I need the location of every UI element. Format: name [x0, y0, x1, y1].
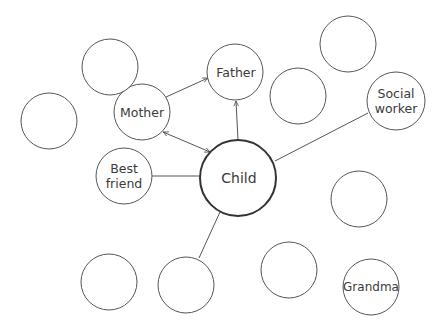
edge-child-father — [236, 101, 238, 140]
label-social-worker-line1: Social — [375, 86, 418, 101]
edge-mother-father — [166, 78, 208, 97]
label-child: Child — [221, 171, 256, 186]
edge-mother-child — [163, 132, 210, 152]
node-empty-8 — [261, 242, 317, 298]
node-empty-1 — [82, 39, 138, 95]
node-empty-2 — [21, 93, 77, 149]
label-father: Father — [216, 65, 255, 80]
node-empty-4 — [320, 16, 376, 72]
node-empty-6 — [81, 254, 137, 310]
label-best-friend: Best friend — [106, 161, 143, 191]
label-grandma: Grandma — [343, 280, 399, 295]
label-social-worker-line2: worker — [375, 101, 418, 116]
edge-child-empty7 — [199, 212, 220, 258]
label-best-friend-line2: friend — [106, 176, 143, 191]
label-social-worker: Social worker — [375, 86, 418, 116]
label-mother: Mother — [120, 105, 164, 120]
node-empty-5 — [331, 171, 387, 227]
label-best-friend-line1: Best — [106, 161, 143, 176]
node-empty-3 — [270, 68, 326, 124]
node-empty-7 — [158, 257, 214, 313]
